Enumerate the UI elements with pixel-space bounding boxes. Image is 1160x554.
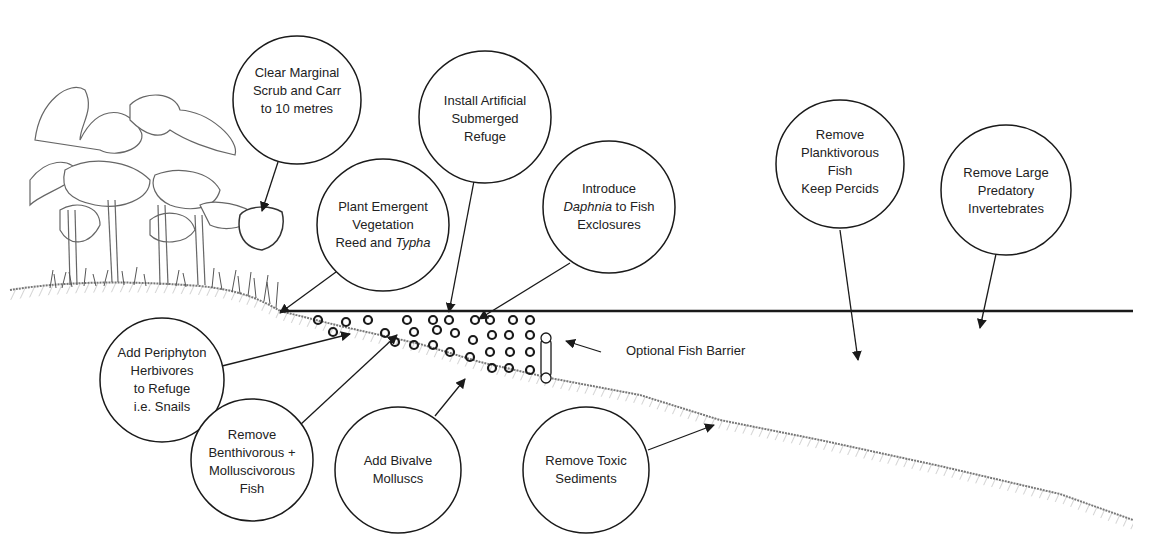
- callout-install-refuge: [419, 51, 551, 312]
- callout-add-bivalve: [335, 379, 465, 533]
- fish-barrier: [541, 333, 551, 383]
- callout-plant-emergent: [280, 159, 449, 313]
- lake-restoration-diagram: [0, 0, 1160, 554]
- barrier-label-arrow: [566, 341, 601, 352]
- callout-remove-planktivorous: [776, 100, 904, 360]
- callout-remove-invertebrates: [941, 125, 1071, 328]
- callout-remove-toxic: [523, 407, 714, 533]
- optional-fish-barrier-label: Optional Fish Barrier: [626, 343, 745, 358]
